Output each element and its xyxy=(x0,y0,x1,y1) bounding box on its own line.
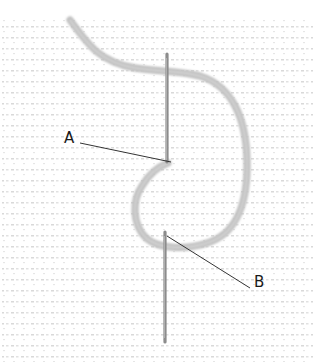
diagram-canvas: A B xyxy=(0,0,313,362)
label-b: B xyxy=(254,275,264,290)
needle-bottom xyxy=(164,232,165,342)
stitch-illustration xyxy=(0,0,313,362)
needle-top xyxy=(166,54,167,162)
label-a: A xyxy=(64,131,74,146)
